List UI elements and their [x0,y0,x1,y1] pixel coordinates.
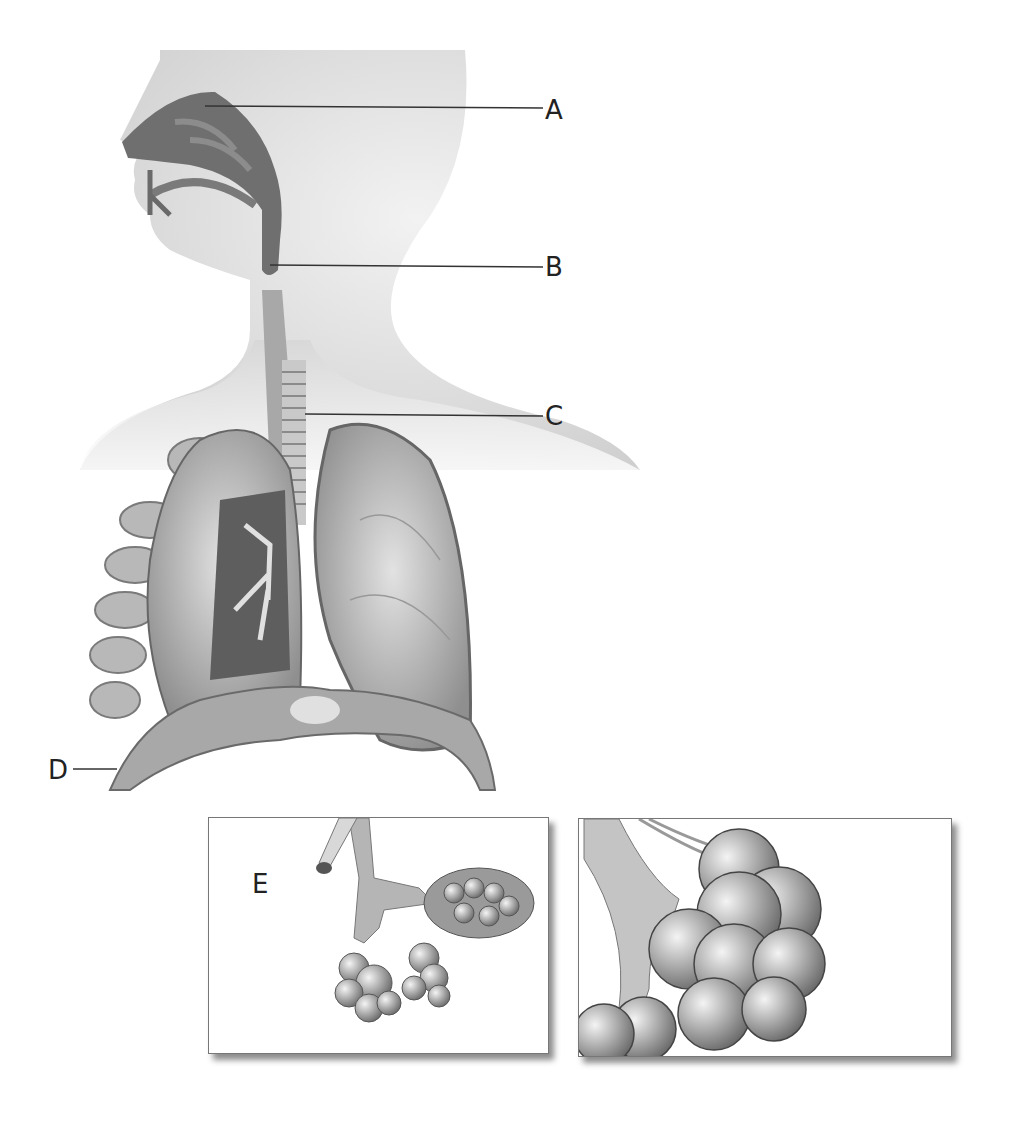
label-b: B [545,254,563,280]
right-lung-cutaway [148,430,302,727]
bronchiole-alveoli-illustration [209,818,548,1053]
alveoli-closeup-inset [578,818,952,1057]
respiratory-diagram: A B C D E [0,0,1013,1136]
label-d: D [48,757,68,783]
label-e: E [252,871,268,897]
label-c: C [545,403,563,429]
bronchiole-alveoli-inset [208,817,549,1054]
alveoli-closeup-illustration [579,819,951,1056]
label-a: A [545,97,563,123]
